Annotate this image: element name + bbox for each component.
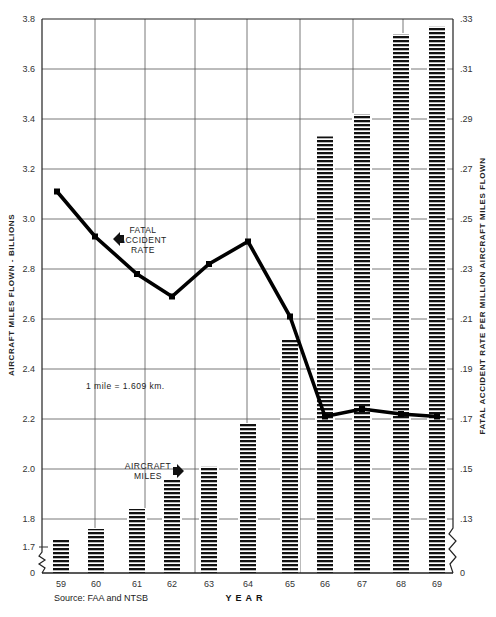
left-tick-label: 3.6 <box>22 64 35 74</box>
right-tick-label: .15 <box>460 464 473 474</box>
rate-point-62 <box>169 294 175 300</box>
bar-62 <box>162 478 182 573</box>
left-tick-label: 3.2 <box>22 164 35 174</box>
year-tick-label: 64 <box>243 579 253 589</box>
right-tick-label: .13 <box>460 514 473 524</box>
bar-64 <box>238 423 258 573</box>
left-tick-label: 3.4 <box>22 114 35 124</box>
left-tick-label: 3.0 <box>22 214 35 224</box>
arrow-right-icon <box>173 464 184 478</box>
left-tick-label: 3.8 <box>22 14 35 24</box>
bar-65 <box>280 338 300 573</box>
source-note: Source: FAA and NTSB <box>54 593 148 603</box>
left-axis-ticks: 01.71.82.02.22.42.62.83.03.23.43.63.8 <box>22 14 48 578</box>
svg-text:RATE: RATE <box>131 245 155 255</box>
left-tick-label: 2.8 <box>22 264 35 274</box>
year-axis-ticks: 5960616263646566676869 <box>56 579 442 589</box>
left-tick-label: 2.6 <box>22 314 35 324</box>
left-tick-label: 1.8 <box>22 514 35 524</box>
fatal-rate-annotation: FATAL ACCIDENT RATE <box>113 225 167 255</box>
right-tick-label: .25 <box>460 214 473 224</box>
right-axis-label: FATAL ACCIDENT RATE PER MILLION AIRCRAFT… <box>478 157 487 434</box>
left-tick-label: 0 <box>30 568 35 578</box>
rate-point-67 <box>359 406 365 412</box>
bar-66 <box>315 136 335 574</box>
rate-point-65 <box>287 314 293 320</box>
right-axis-ticks: 0.13.15.17.19.21.23.25.27.29.31.33 <box>460 14 473 578</box>
right-tick-label: .33 <box>460 14 473 24</box>
left-tick-label: 2.0 <box>22 464 35 474</box>
right-tick-label: 0 <box>460 568 465 578</box>
year-tick-label: 66 <box>320 579 330 589</box>
year-tick-label: 59 <box>56 579 66 589</box>
x-axis-label: YEAR <box>225 593 266 603</box>
conversion-note: 1 mile = 1.609 km. <box>86 381 165 391</box>
bar-63 <box>199 466 219 574</box>
rate-point-63 <box>206 261 212 267</box>
left-tick-label: 2.4 <box>22 364 35 374</box>
bar-61 <box>127 508 147 573</box>
right-tick-label: .23 <box>460 264 473 274</box>
rate-point-60 <box>92 234 98 240</box>
right-tick-label: .19 <box>460 364 473 374</box>
right-tick-label: .17 <box>460 414 473 424</box>
year-tick-label: 61 <box>132 579 142 589</box>
bar-67 <box>352 113 372 573</box>
year-tick-label: 65 <box>285 579 295 589</box>
svg-text:MILES: MILES <box>134 471 162 481</box>
rate-point-61 <box>134 271 140 277</box>
rate-point-64 <box>245 239 251 245</box>
year-tick-label: 67 <box>357 579 367 589</box>
left-tick-label: 1.7 <box>22 542 35 552</box>
left-axis-label: AIRCRAFT MILES FLOWN - BILLIONS <box>7 214 16 376</box>
rate-point-66 <box>322 414 328 420</box>
bar-68 <box>391 33 411 573</box>
year-tick-label: 62 <box>167 579 177 589</box>
aircraft-miles-bars <box>51 26 447 574</box>
year-tick-label: 60 <box>91 579 101 589</box>
year-tick-label: 68 <box>396 579 406 589</box>
rate-point-68 <box>398 411 404 417</box>
year-tick-label: 69 <box>432 579 442 589</box>
bar-69 <box>427 26 447 574</box>
right-tick-label: .27 <box>460 164 473 174</box>
svg-text:AIRCRAFT: AIRCRAFT <box>125 461 172 471</box>
rate-point-69 <box>434 414 440 420</box>
right-tick-label: .29 <box>460 114 473 124</box>
right-tick-label: .21 <box>460 314 473 324</box>
bar-60 <box>86 528 106 573</box>
year-tick-label: 63 <box>204 579 214 589</box>
aircraft-miles-fatal-rate-chart: 01.71.82.02.22.42.62.83.03.23.43.63.8 0.… <box>0 0 496 617</box>
left-tick-label: 2.2 <box>22 414 35 424</box>
svg-text:FATAL: FATAL <box>129 225 156 235</box>
right-tick-label: .31 <box>460 64 473 74</box>
bar-59 <box>51 538 71 573</box>
svg-text:ACCIDENT: ACCIDENT <box>119 235 166 245</box>
rate-point-59 <box>54 189 60 195</box>
